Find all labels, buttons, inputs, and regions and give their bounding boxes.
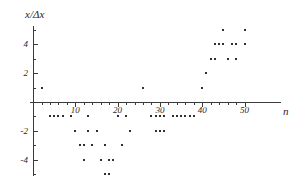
data-point	[57, 115, 59, 117]
data-point	[180, 115, 182, 117]
y-tick-minor	[33, 145, 36, 146]
x-tick-minor	[219, 102, 220, 105]
y-tick-major	[33, 73, 38, 74]
x-axis-label: n	[283, 105, 289, 117]
x-tick-minor	[135, 102, 136, 105]
data-point	[201, 87, 203, 89]
x-tick-minor	[126, 102, 127, 105]
x-tick-label: 10	[71, 105, 80, 115]
y-tick-minor	[33, 174, 36, 175]
data-point	[53, 115, 55, 117]
y-tick-minor	[33, 30, 36, 31]
x-tick-minor	[42, 102, 43, 105]
data-point	[172, 115, 174, 117]
data-point	[227, 58, 229, 60]
plot-area: x/Δx n 102030405042-2-4	[0, 0, 297, 192]
data-point	[49, 115, 51, 117]
y-tick-major	[33, 131, 38, 132]
data-point	[214, 58, 216, 60]
y-axis-line	[33, 26, 34, 176]
data-point	[163, 115, 165, 117]
data-point	[108, 159, 110, 161]
data-point	[41, 87, 43, 89]
data-point	[205, 72, 207, 74]
y-tick-minor	[33, 88, 36, 89]
data-point	[83, 144, 85, 146]
data-point	[193, 115, 195, 117]
data-point	[159, 115, 161, 117]
y-tick-major	[33, 160, 38, 161]
data-point	[244, 43, 246, 45]
data-point	[100, 159, 102, 161]
y-tick-minor	[33, 116, 36, 117]
data-point	[214, 43, 216, 45]
data-point	[104, 173, 106, 175]
data-point	[142, 87, 144, 89]
y-tick-label: 2	[6, 68, 28, 78]
data-point	[159, 130, 161, 132]
y-tick-label: -4	[6, 155, 28, 165]
x-tick-label: 20	[113, 105, 122, 115]
x-tick-minor	[236, 102, 237, 105]
y-tick-label: -2	[6, 126, 28, 136]
data-point	[235, 58, 237, 60]
x-tick-minor	[151, 102, 152, 105]
data-point	[91, 144, 93, 146]
scatter-plot-figure: x/Δx n 102030405042-2-4	[0, 0, 297, 192]
data-point	[163, 130, 165, 132]
data-point	[210, 58, 212, 60]
data-point	[96, 130, 98, 132]
x-tick-minor	[168, 102, 169, 105]
data-point	[222, 29, 224, 31]
data-point	[189, 115, 191, 117]
x-tick-label: 50	[240, 105, 249, 115]
data-point	[83, 159, 85, 161]
x-tick-minor	[58, 102, 59, 105]
y-tick-minor	[33, 59, 36, 60]
data-point	[125, 115, 127, 117]
data-point	[176, 115, 178, 117]
data-point	[222, 43, 224, 45]
data-point	[184, 115, 186, 117]
y-tick-label: 4	[6, 39, 28, 49]
data-point	[235, 43, 237, 45]
x-tick-minor	[228, 102, 229, 105]
x-tick-label: 40	[198, 105, 207, 115]
data-point	[155, 130, 157, 132]
data-point	[62, 115, 64, 117]
x-tick-minor	[101, 102, 102, 105]
data-point	[79, 144, 81, 146]
data-point	[117, 115, 119, 117]
data-point	[70, 115, 72, 117]
data-point	[104, 144, 106, 146]
data-point	[231, 43, 233, 45]
x-tick-minor	[177, 102, 178, 105]
x-tick-minor	[194, 102, 195, 105]
x-tick-minor	[67, 102, 68, 105]
data-point	[155, 115, 157, 117]
data-point	[108, 173, 110, 175]
data-point	[112, 159, 114, 161]
x-tick-minor	[50, 102, 51, 105]
data-point	[150, 115, 152, 117]
x-tick-minor	[92, 102, 93, 105]
x-tick-minor	[143, 102, 144, 105]
y-tick-major	[33, 44, 38, 45]
y-axis-label: x/Δx	[25, 8, 44, 20]
data-point	[87, 130, 89, 132]
x-tick-minor	[84, 102, 85, 105]
data-point	[244, 29, 246, 31]
data-point	[74, 130, 76, 132]
x-tick-minor	[185, 102, 186, 105]
x-tick-label: 30	[155, 105, 164, 115]
x-tick-minor	[109, 102, 110, 105]
data-point	[129, 130, 131, 132]
data-point	[87, 115, 89, 117]
data-point	[121, 144, 123, 146]
x-tick-minor	[211, 102, 212, 105]
data-point	[218, 43, 220, 45]
